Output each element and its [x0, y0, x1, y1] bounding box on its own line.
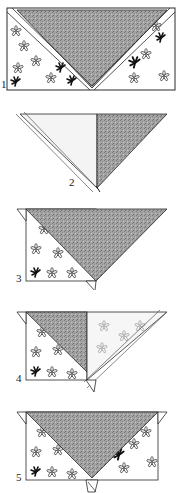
step-number: 1	[1, 78, 7, 90]
step-number: 3	[16, 272, 22, 284]
step-number: 5	[16, 471, 22, 483]
step-number: 4	[16, 372, 22, 384]
step-1-diagram	[0, 0, 180, 95]
light-half	[20, 114, 97, 188]
step-2-diagram	[0, 100, 180, 195]
step-4-diagram	[0, 292, 180, 392]
shaded-half	[97, 114, 167, 188]
step-number: 2	[69, 176, 75, 188]
step-5-diagram	[0, 392, 180, 493]
step-3-diagram	[0, 195, 180, 290]
